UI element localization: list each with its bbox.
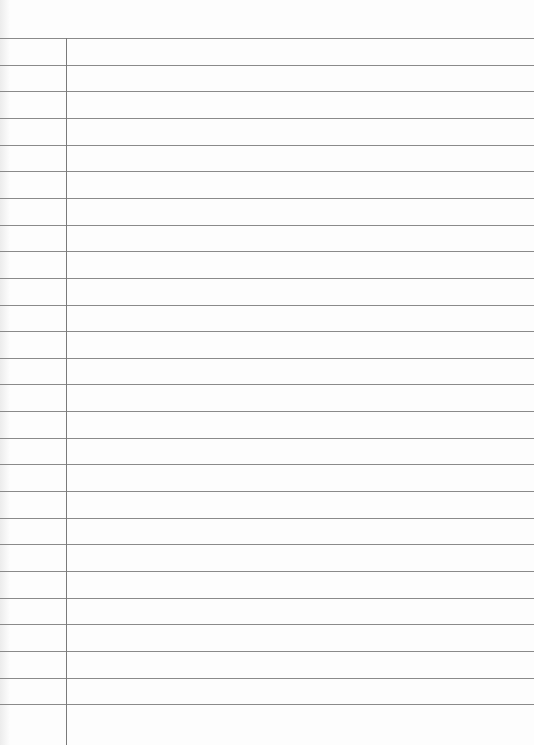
ruled-paper-sheet — [0, 0, 534, 745]
rule-line — [0, 118, 534, 119]
rule-line — [0, 65, 534, 66]
rule-line — [0, 331, 534, 332]
rule-line — [0, 571, 534, 572]
rule-line — [0, 225, 534, 226]
rule-line — [0, 305, 534, 306]
rule-line — [0, 171, 534, 172]
edge-shadow — [0, 0, 10, 745]
rule-line — [0, 464, 534, 465]
rule-line — [0, 38, 534, 39]
margin-line — [66, 38, 67, 745]
rule-line — [0, 624, 534, 625]
rule-line — [0, 91, 534, 92]
rule-line — [0, 651, 534, 652]
rule-line — [0, 384, 534, 385]
rule-line — [0, 278, 534, 279]
rule-line — [0, 598, 534, 599]
rule-line — [0, 518, 534, 519]
rule-line — [0, 251, 534, 252]
rule-line — [0, 704, 534, 705]
rule-line — [0, 198, 534, 199]
rule-line — [0, 145, 534, 146]
rule-line — [0, 678, 534, 679]
rule-line — [0, 491, 534, 492]
rule-line — [0, 358, 534, 359]
rule-line — [0, 544, 534, 545]
rule-line — [0, 411, 534, 412]
rule-line — [0, 438, 534, 439]
